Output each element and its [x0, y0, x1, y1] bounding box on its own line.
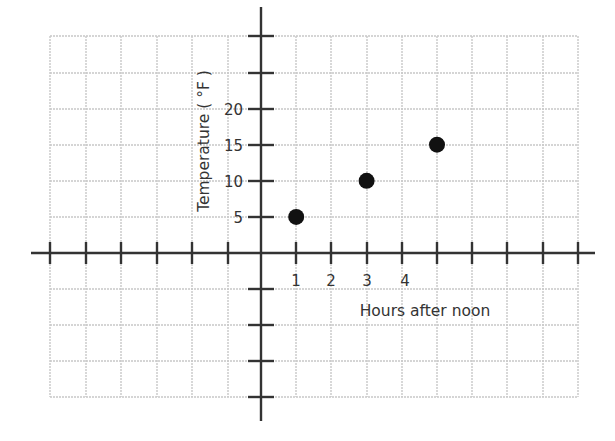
y-tick-label: 10: [224, 173, 243, 191]
y-tick-label: 5: [233, 209, 243, 227]
y-tick-labels: 5 10 15 20: [224, 101, 243, 227]
x-axis-label: Hours after noon: [360, 302, 491, 320]
data-point: [288, 209, 304, 225]
x-tick-label: 1: [291, 272, 301, 290]
x-tick-label: 4: [400, 272, 410, 290]
axes: [31, 7, 595, 421]
scatter-chart: 1 2 3 4 5 10 15 20 Hours after noon Temp…: [0, 0, 615, 441]
y-axis-label: Temperature ( °F ): [195, 70, 213, 213]
data-point: [359, 173, 375, 189]
grid: [50, 36, 578, 397]
y-tick-label: 20: [224, 101, 243, 119]
x-tick-labels: 1 2 3 4: [291, 272, 410, 290]
y-tick-label: 15: [224, 137, 243, 155]
x-tick-label: 2: [326, 272, 336, 290]
data-point: [429, 137, 445, 153]
x-tick-label: 3: [362, 272, 372, 290]
